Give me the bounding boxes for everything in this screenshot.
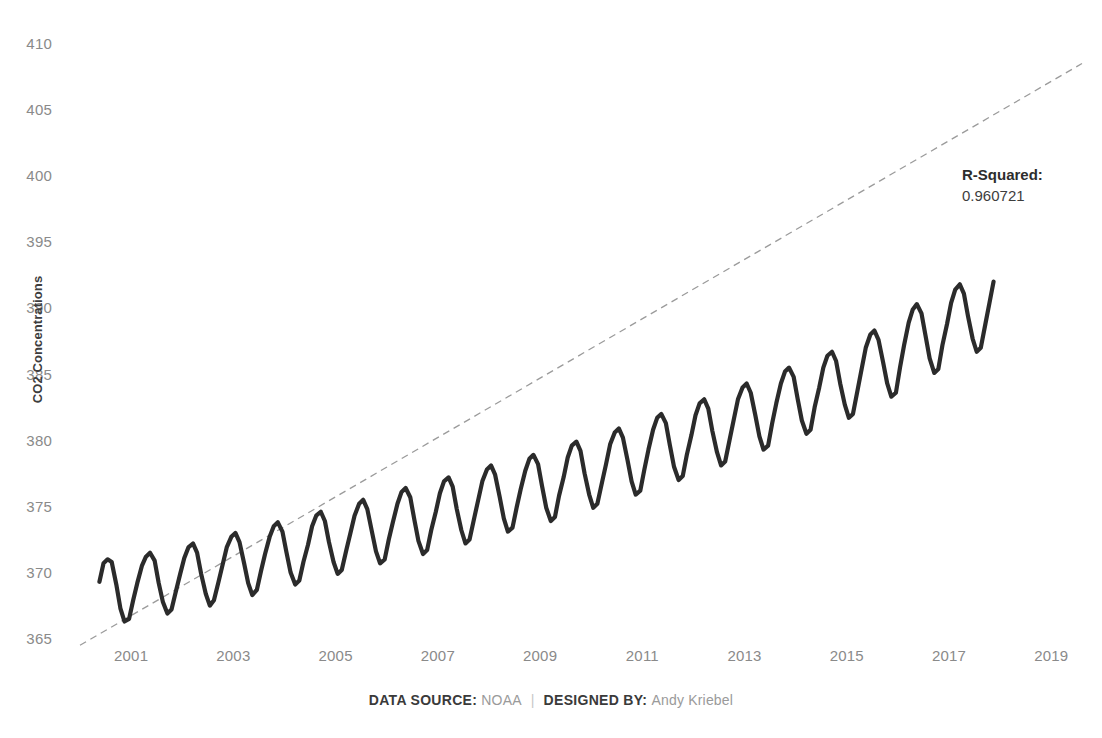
y-axis-tick-365: 365 bbox=[0, 630, 52, 647]
x-axis-tick-2009: 2009 bbox=[500, 647, 580, 664]
y-axis-title: CO2 Concentrations bbox=[30, 240, 45, 440]
x-axis-tick-2003: 2003 bbox=[193, 647, 273, 664]
x-axis-tick-2011: 2011 bbox=[602, 647, 682, 664]
r-squared-annotation: R-Squared: 0.960721 bbox=[962, 164, 1092, 206]
x-axis-tick-2013: 2013 bbox=[705, 647, 785, 664]
designed-by-value: Andy Kriebel bbox=[651, 692, 733, 708]
x-axis-tick-2001: 2001 bbox=[91, 647, 171, 664]
chart-plot-area bbox=[0, 0, 1102, 738]
x-axis-tick-2005: 2005 bbox=[296, 647, 376, 664]
co2-data-line bbox=[99, 282, 993, 622]
trend-line-group bbox=[80, 64, 1082, 646]
data-source-label: DATA SOURCE: bbox=[369, 692, 477, 708]
data-source-value: NOAA bbox=[481, 692, 521, 708]
co2-concentrations-chart: 365370375380385390395400405410 200120032… bbox=[0, 0, 1102, 738]
y-axis-tick-410: 410 bbox=[0, 35, 52, 52]
x-axis-tick-2015: 2015 bbox=[807, 647, 887, 664]
y-axis-tick-370: 370 bbox=[0, 564, 52, 581]
trend-line bbox=[80, 64, 1082, 646]
y-axis-tick-400: 400 bbox=[0, 167, 52, 184]
x-axis-tick-2017: 2017 bbox=[909, 647, 989, 664]
x-axis-tick-2007: 2007 bbox=[398, 647, 478, 664]
r-squared-value: 0.960721 bbox=[962, 185, 1092, 206]
chart-footer: DATA SOURCE: NOAA|DESIGNED BY: Andy Krie… bbox=[0, 692, 1102, 708]
r-squared-label: R-Squared: bbox=[962, 164, 1092, 185]
data-line-group bbox=[99, 282, 993, 622]
designed-by-label: DESIGNED BY: bbox=[544, 692, 648, 708]
y-axis-tick-405: 405 bbox=[0, 101, 52, 118]
x-axis-tick-2019: 2019 bbox=[1011, 647, 1091, 664]
y-axis-tick-375: 375 bbox=[0, 498, 52, 515]
footer-separator: | bbox=[522, 692, 544, 708]
